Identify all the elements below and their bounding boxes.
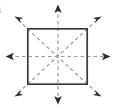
dashed-axis-lines bbox=[9, 8, 107, 101]
arrow-up-right-head bbox=[93, 16, 102, 23]
diagram-canvas bbox=[0, 0, 114, 109]
expansion-diagram: s bbox=[0, 0, 114, 109]
arrow-up-head bbox=[54, 5, 62, 14]
arrow-left-head bbox=[6, 53, 15, 61]
arrow-up-left-head bbox=[14, 16, 23, 23]
arrow-down-head bbox=[54, 96, 62, 105]
arrow-down-right-head bbox=[93, 90, 102, 97]
arrow-down-left-head bbox=[14, 90, 23, 97]
